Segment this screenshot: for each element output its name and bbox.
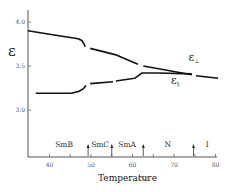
transition-arrow-head — [142, 144, 145, 148]
y-axis-label: ε — [8, 42, 16, 60]
x-tick-label: 70 — [170, 161, 178, 168]
curve-eps-par-segment — [90, 82, 113, 84]
axes — [28, 10, 217, 157]
curve-eps-par-segment — [116, 73, 192, 81]
series-labels: ε⊥ε∥ — [171, 51, 199, 87]
transition-arrow-head — [110, 144, 113, 148]
curve-eps-perp-segment — [28, 31, 85, 47]
label-eps-par-sub: ∥ — [177, 81, 179, 87]
curve-eps-perp-segment — [196, 76, 218, 79]
axis-lines — [28, 10, 217, 157]
x-axis-ticks: 4050607080 — [46, 154, 220, 168]
label-eps-perp-sub: ⊥ — [195, 58, 200, 64]
x-tick-label: 40 — [46, 161, 54, 168]
phase-label-n: N — [164, 140, 171, 149]
y-tick-label: 4.0 — [15, 18, 25, 25]
y-tick-label: 3.0 — [15, 106, 25, 113]
x-tick-label: 80 — [212, 161, 220, 168]
y-axis-ticks: 4.03.53.0 — [15, 18, 31, 113]
x-tick-label: 60 — [129, 161, 137, 168]
transition-arrow-head — [87, 144, 90, 148]
phase-label-smc: SmC — [91, 140, 109, 149]
transition-arrow-head — [192, 144, 195, 148]
dielectric-chart: 4050607080 4.03.53.0 SmBSmCSmANI ε⊥ε∥ ε … — [0, 0, 232, 192]
curve-eps-par-segment — [36, 85, 86, 93]
phase-label-smb: SmB — [55, 140, 73, 149]
x-tick-label: 50 — [87, 161, 95, 168]
phase-label-i: I — [206, 140, 209, 149]
phase-labels: SmBSmCSmANI — [55, 140, 209, 156]
y-tick-label: 3.5 — [15, 62, 25, 69]
x-axis-unit: (°C) — [138, 175, 148, 181]
curve-eps-perp-segment — [90, 48, 138, 64]
phase-label-sma: SmA — [118, 140, 136, 149]
